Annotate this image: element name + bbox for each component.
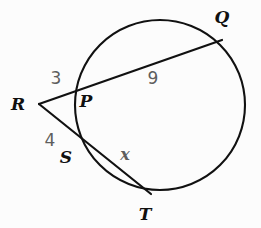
point-label-r: R xyxy=(10,94,25,114)
point-label-p: P xyxy=(79,91,94,111)
point-label-t: T xyxy=(139,204,153,224)
geometry-canvas: R P Q S T 3 9 4 x xyxy=(0,0,261,228)
measure-label-st: x xyxy=(119,145,130,164)
point-label-s: S xyxy=(60,147,72,167)
secant-line-rq xyxy=(39,40,222,104)
measure-label-rp: 3 xyxy=(51,68,62,88)
measure-label-pq: 9 xyxy=(148,68,159,88)
geometry-diagram: R P Q S T 3 9 4 x xyxy=(0,0,261,228)
secant-line-rt xyxy=(39,104,151,194)
circle-shape xyxy=(75,20,245,190)
measure-label-rs: 4 xyxy=(45,130,56,150)
point-label-q: Q xyxy=(215,7,230,27)
